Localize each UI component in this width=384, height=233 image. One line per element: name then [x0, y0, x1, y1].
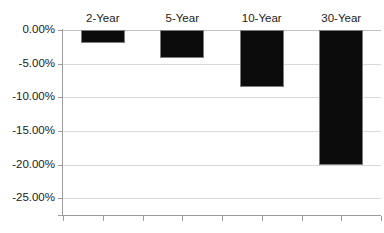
bar-slot	[160, 30, 204, 215]
bar-2-year[interactable]	[81, 30, 125, 43]
value-axis-label: -20.00%	[0, 158, 55, 171]
category-axis-tick	[381, 216, 382, 221]
category-axis-tick	[341, 216, 342, 221]
bar-slot	[240, 30, 284, 215]
bar-10-year[interactable]	[240, 30, 284, 87]
bar-slot	[319, 30, 363, 215]
category-label-10-year: 10-Year	[222, 8, 302, 28]
category-label-2-year: 2-Year	[63, 8, 143, 28]
category-axis-tick	[262, 216, 263, 221]
category-axis-tick	[143, 216, 144, 221]
chart-title	[0, 0, 384, 3]
value-axis-label: -25.00%	[0, 191, 55, 204]
value-axis-label: -5.00%	[0, 57, 55, 70]
value-axis-label: -10.00%	[0, 90, 55, 103]
category-axis-tick	[222, 216, 223, 221]
category-axis-tick	[103, 216, 104, 221]
category-label-5-year: 5-Year	[143, 8, 223, 28]
bar-series	[63, 30, 381, 215]
category-label-30-year: 30-Year	[302, 8, 382, 28]
bar-30-year[interactable]	[319, 30, 363, 165]
bar-5-year[interactable]	[160, 30, 204, 58]
bar-slot	[81, 30, 125, 215]
bar-chart: 2-Year 5-Year 10-Year 30-Year 0.00%-5.00…	[0, 0, 384, 233]
category-axis-tick	[302, 216, 303, 221]
value-axis-label: -15.00%	[0, 124, 55, 137]
value-axis-label: 0.00%	[0, 23, 55, 36]
category-axis-labels: 2-Year 5-Year 10-Year 30-Year	[63, 8, 381, 28]
category-axis-tick	[63, 216, 64, 221]
category-axis-tick	[182, 216, 183, 221]
